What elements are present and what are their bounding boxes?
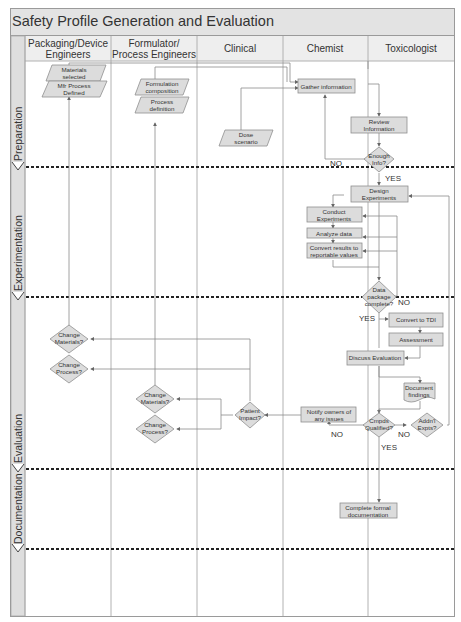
svg-text:findings: findings [408,391,429,398]
decision-change-process-formulator: Change Process? [136,415,174,443]
svg-text:Analyze data: Analyze data [316,230,352,237]
svg-text:Experiments: Experiments [317,215,351,222]
process-convert-results: Convert results to reportable values [307,243,362,258]
svg-text:Patient: Patient [240,407,260,414]
svg-text:selected: selected [62,73,86,80]
svg-text:composition: composition [145,87,179,94]
io-mfr-process-defined: Mfr Process Defined [42,81,107,97]
svg-text:Notify owners of: Notify owners of [307,408,352,415]
label-no: NO [330,159,342,168]
process-gather-information: Gather information [298,79,355,93]
document-findings: Document findings [404,383,435,402]
process-review-information: Review Information [351,117,407,133]
process-discuss-evaluation: Discuss Evaluation [347,351,404,365]
decision-data-package-complete: Data package complete? [362,281,396,313]
svg-text:Convert to TDI: Convert to TDI [396,316,436,323]
svg-text:Assessment: Assessment [399,336,433,343]
svg-text:Addn'l: Addn'l [418,417,435,424]
svg-text:Review: Review [369,118,390,125]
label-no: NO [398,298,410,307]
svg-text:scenario: scenario [234,138,258,145]
phase-label-evaluation: Evaluation [12,414,24,463]
svg-text:reportable values: reportable values [310,251,357,258]
decision-patient-impact: Patient Impact? [235,402,265,428]
process-convert-to-tdi: Convert to TDI [389,313,443,327]
svg-text:Materials: Materials [61,66,86,73]
svg-text:Process?: Process? [142,428,168,435]
process-design-experiments: Design Experiments [351,186,408,202]
svg-text:Impact?: Impact? [239,414,262,421]
svg-text:Materials?: Materials? [55,338,84,345]
svg-text:Information: Information [364,125,396,132]
svg-text:definition: definition [150,105,175,112]
svg-text:Expts?: Expts? [418,424,437,431]
svg-text:Formulation: Formulation [146,80,179,87]
decision-enough-info: Enough Info? [364,147,394,172]
label-yes: YES [385,174,401,183]
label-yes: YES [359,314,375,323]
svg-text:Convert results to: Convert results to [310,244,359,251]
flowchart-canvas: Packaging/Device Engineers Formulator/ P… [11,9,454,616]
svg-text:Cmpds: Cmpds [369,417,389,424]
svg-text:Formulator/: Formulator/ [128,38,179,49]
decision-change-materials-formulator: Change Materials? [136,385,174,413]
svg-text:Enough: Enough [368,152,390,159]
label-yes: YES [381,443,397,452]
svg-text:Packaging/Device: Packaging/Device [28,38,108,49]
svg-text:Qualified?: Qualified? [365,424,393,431]
svg-text:Materials?: Materials? [141,398,170,405]
svg-text:Process Engineers: Process Engineers [112,49,196,60]
io-materials-selected: Materials selected [46,65,106,81]
decision-change-process-packaging: Change Process? [50,355,88,383]
io-process-definition: Process definition [135,97,189,113]
svg-text:Info?: Info? [372,159,386,166]
svg-text:Dose: Dose [239,131,254,138]
svg-text:Defined: Defined [63,89,85,96]
svg-text:Engineers: Engineers [45,49,90,60]
decision-change-materials-packaging: Change Materials? [50,325,88,353]
label-no: NO [331,430,343,439]
io-dose-scenario: Dose scenario [219,130,273,146]
lane-header-clinical: Clinical [224,43,256,54]
svg-text:documentation: documentation [348,511,389,518]
svg-text:Complete formal: Complete formal [345,504,390,511]
phase-label-documentation: Documentation [12,473,24,544]
process-conduct-experiments: Conduct Experiments [307,207,362,222]
svg-text:Process: Process [151,98,173,105]
svg-text:Change: Change [58,361,80,368]
svg-text:package: package [367,293,391,300]
svg-text:Change: Change [58,331,80,338]
phase-label-experimentation: Experimentation [12,215,24,291]
svg-text:Design: Design [369,187,389,194]
label-no: NO [398,430,410,439]
decision-addnl-expts: Addn'l Expts? [411,413,443,437]
svg-text:Experiments: Experiments [362,194,396,201]
svg-text:Change: Change [144,391,166,398]
phase-label-preparation: Preparation [12,107,24,161]
svg-text:Change: Change [144,421,166,428]
process-analyze-data: Analyze data [307,228,362,238]
lane-header-toxicologist: Toxicologist [385,43,437,54]
svg-text:any issues: any issues [314,415,343,422]
io-formulation-composition: Formulation composition [135,79,189,95]
svg-text:Gather information: Gather information [300,83,352,90]
svg-text:Document: Document [405,384,433,391]
process-complete-documentation: Complete formal documentation [340,503,397,518]
svg-text:Data: Data [372,286,386,293]
svg-text:complete?: complete? [365,300,394,307]
svg-text:Mfr Process: Mfr Process [57,82,90,89]
lane-header-chemist: Chemist [307,43,344,54]
process-assessment: Assessment [389,333,443,346]
process-notify-owners: Notify owners of any issues [301,407,356,422]
svg-text:Discuss Evaluation: Discuss Evaluation [349,354,402,361]
swimlane-diagram: Safety Profile Generation and Evaluation… [10,8,455,617]
svg-text:Conduct: Conduct [322,208,345,215]
svg-text:Process?: Process? [56,368,82,375]
